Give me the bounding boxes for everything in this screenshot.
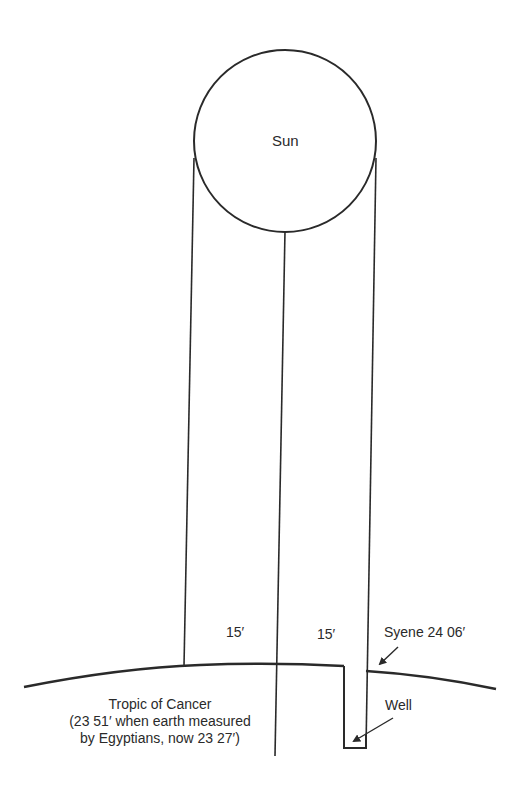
- ray-left: [184, 158, 194, 666]
- caption-line-1: Tropic of Cancer: [40, 696, 280, 713]
- ray-right: [366, 158, 376, 748]
- syene-label: Syene 24 06′: [384, 624, 465, 640]
- caption-line-2: (23 51′ when earth measured: [40, 713, 280, 730]
- sun-label: Sun: [272, 133, 299, 149]
- earth-surface-arc-left: [24, 664, 344, 687]
- angle-label-right: 15′: [317, 626, 335, 642]
- tropic-of-cancer-caption: Tropic of Cancer (23 51′ when earth meas…: [40, 696, 280, 747]
- well-label: Well: [385, 697, 412, 713]
- syene-arrow: [380, 647, 398, 664]
- earth-surface-arc-right: [366, 671, 496, 689]
- well-arrow: [354, 718, 393, 741]
- caption-line-3: by Egyptians, now 23 27′): [40, 730, 280, 747]
- angle-label-left: 15′: [226, 624, 244, 640]
- ray-center: [275, 231, 285, 756]
- eratosthenes-diagram: [0, 0, 521, 795]
